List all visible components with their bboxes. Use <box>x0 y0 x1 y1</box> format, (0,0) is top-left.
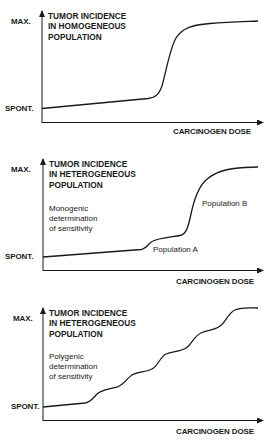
x-axis-label: CARCINOGEN DOSE <box>176 427 254 437</box>
y-spont-label: SPONT. <box>5 104 33 114</box>
y-max-label: MAX. <box>13 314 33 324</box>
y-spont-label: SPONT. <box>11 402 39 412</box>
sensitivity-note: Monogenic determination of sensitivity <box>49 204 97 234</box>
y-axis-title: TUMOR INCIDENCE IN HOMOGENEOUS POPULATIO… <box>48 11 126 42</box>
population-b-label: Population B <box>202 199 247 209</box>
diagram-canvas <box>0 0 273 447</box>
x-axis-label: CARCINOGEN DOSE <box>176 277 254 287</box>
y-axis-title: TUMOR INCIDENCE IN HETEROGENEOUS POPULAT… <box>49 308 136 339</box>
y-spont-label: SPONT. <box>5 252 33 262</box>
y-axis-title: TUMOR INCIDENCE IN HETEROGENEOUS POPULAT… <box>49 159 136 190</box>
y-max-label: MAX. <box>11 17 31 27</box>
population-a-label: Population A <box>153 245 198 255</box>
y-max-label: MAX. <box>11 165 31 175</box>
sensitivity-note: Polygenic determination of sensitivity <box>49 352 97 382</box>
x-axis-label: CARCINOGEN DOSE <box>173 127 251 137</box>
